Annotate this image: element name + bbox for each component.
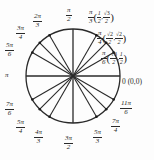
fraction-denominator: 4 bbox=[111, 127, 120, 134]
angle-label-pi-over-2: π 2 bbox=[66, 6, 72, 23]
angle-label-7pi-over-4: 7π 4 bbox=[111, 117, 120, 134]
fraction-5pi-over-4: 5π 4 bbox=[16, 119, 25, 135]
angle-label-pi-over-4-with-coords: π 4 ( √2 2 , √2 2 ) bbox=[97, 30, 126, 46]
angle-label-pi-over-6-with-coords: π 6 ( √3 2 , 1 2 ) bbox=[101, 50, 127, 66]
fraction-denominator: 4 bbox=[16, 34, 25, 41]
fraction-denominator: 6 bbox=[120, 109, 132, 116]
fraction-numerator: π bbox=[66, 7, 72, 14]
coord-x-pi-over-4: √2 2 bbox=[106, 31, 113, 45]
point-210 bbox=[31, 98, 34, 101]
fraction-denominator: 4 bbox=[16, 128, 25, 135]
fraction-denominator: 6 bbox=[5, 51, 14, 58]
fraction-pi-over-2: π 2 bbox=[66, 7, 72, 23]
coord-y-pi-over-4: √2 2 bbox=[115, 31, 122, 45]
fraction-3pi-over-4: 3π 4 bbox=[16, 25, 25, 41]
fraction-2pi-over-3: 2π 3 bbox=[33, 13, 42, 29]
fraction-numerator: 11π bbox=[120, 100, 132, 107]
point-315 bbox=[105, 108, 108, 111]
fraction-numerator: 3π bbox=[16, 25, 25, 32]
angle-label-5pi-over-3: 5π 3 bbox=[93, 128, 102, 145]
fraction-numerator: 2π bbox=[33, 13, 42, 20]
angle-label-pi-over-3-with-coords: π 3 ( 1 2 , √3 2 ) bbox=[88, 9, 114, 25]
close-paren: ) bbox=[110, 12, 114, 23]
zero-origin-text: 0 (0,0) bbox=[122, 77, 142, 86]
fraction-denominator: 2 bbox=[64, 144, 73, 151]
fraction-numerator: 5π bbox=[93, 129, 102, 136]
fraction-numerator: 5π bbox=[16, 119, 25, 126]
point-330 bbox=[112, 98, 115, 101]
pi-symbol: π bbox=[5, 72, 9, 79]
fraction-numerator: 3π bbox=[64, 135, 73, 142]
angle-label-4pi-over-3: 4π 3 bbox=[34, 128, 43, 145]
fraction-denominator: 2 bbox=[115, 39, 122, 45]
coord-row-pi-over-3: π 3 ( 1 2 , √3 2 ) bbox=[88, 9, 114, 25]
fraction-numerator: 5π bbox=[5, 42, 14, 49]
angle-label-3pi-over-4: 3π 4 bbox=[16, 24, 25, 41]
fraction-numerator: 7π bbox=[5, 101, 14, 108]
close-paren: ) bbox=[123, 53, 127, 64]
angle-label-5pi-over-6: 5π 6 bbox=[5, 41, 14, 58]
angle-label-pi: π bbox=[5, 71, 9, 79]
fraction-numerator: 4π bbox=[34, 129, 43, 136]
angle-label-7pi-over-6: 7π 6 bbox=[5, 100, 14, 117]
point-300 bbox=[95, 115, 98, 118]
unit-circle-figure: π 2 2π 3 3π 4 5π 6 π 7π bbox=[0, 0, 154, 160]
angle-label-2pi-over-3: 2π 3 bbox=[33, 12, 42, 29]
angle-label-5pi-over-4: 5π 4 bbox=[16, 118, 25, 135]
fraction-denominator: 3 bbox=[33, 22, 42, 29]
fraction-denominator: 2 bbox=[110, 59, 117, 65]
fraction-denominator: 2 bbox=[106, 39, 113, 45]
fraction-numerator: √3 bbox=[110, 51, 117, 57]
angle-label-11pi-over-6: 11π 6 bbox=[120, 99, 132, 116]
fraction-denominator: 2 bbox=[66, 16, 72, 23]
fraction-numerator: √2 bbox=[106, 31, 113, 37]
fraction-4pi-over-3: 4π 3 bbox=[34, 129, 43, 145]
fraction-5pi-over-3: 5π 3 bbox=[93, 129, 102, 145]
fraction-numerator: √3 bbox=[103, 10, 110, 16]
fraction-numerator: √2 bbox=[115, 31, 122, 37]
fraction-5pi-over-6: 5π 6 bbox=[5, 42, 14, 58]
angle-label-3pi-over-2: 3π 2 bbox=[64, 134, 73, 151]
point-120 bbox=[48, 34, 51, 37]
coord-row-pi-over-6: π 6 ( √3 2 , 1 2 ) bbox=[101, 50, 127, 66]
point-240 bbox=[48, 115, 51, 118]
point-150 bbox=[31, 51, 34, 54]
coord-y-pi-over-3: √3 2 bbox=[103, 10, 110, 24]
coord-x-pi-over-6: √3 2 bbox=[110, 51, 117, 65]
point-225 bbox=[38, 108, 41, 111]
fraction-denominator: 3 bbox=[93, 138, 102, 145]
fraction-7pi-over-4: 7π 4 bbox=[111, 118, 120, 134]
close-paren: ) bbox=[123, 33, 127, 44]
fraction-denominator: 3 bbox=[34, 138, 43, 145]
coord-row-pi-over-4: π 4 ( √2 2 , √2 2 ) bbox=[97, 30, 126, 46]
fraction-denominator: 2 bbox=[103, 18, 110, 24]
fraction-denominator: 6 bbox=[5, 110, 14, 117]
fraction-numerator: 7π bbox=[111, 118, 120, 125]
fraction-7pi-over-6: 7π 6 bbox=[5, 101, 14, 117]
point-135 bbox=[38, 41, 41, 44]
angle-label-zero-with-origin: 0 (0,0) bbox=[122, 71, 142, 87]
fraction-3pi-over-2: 3π 2 bbox=[64, 135, 73, 151]
fraction-11pi-over-6: 11π 6 bbox=[120, 100, 132, 116]
